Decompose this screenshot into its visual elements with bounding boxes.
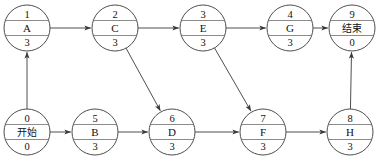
activity-network-diagram: 1A32C33E34G39结束00开始05B36D37F38H3 <box>0 0 381 162</box>
node-label: C <box>111 22 118 34</box>
node-a[interactable]: 1A3 <box>4 5 50 51</box>
node-earliest-time: 7 <box>260 113 265 124</box>
node-label: F <box>260 126 266 138</box>
node-duration: 3 <box>200 37 205 48</box>
node-earliest-time: 2 <box>112 9 117 20</box>
node-duration: 0 <box>24 141 29 152</box>
node-label: 开始 <box>17 126 37 138</box>
nodes-layer: 1A32C33E34G39结束00开始05B36D37F38H3 <box>4 5 375 155</box>
node-duration: 3 <box>260 141 265 152</box>
node-duration: 3 <box>287 37 292 48</box>
node-label: A <box>23 22 31 34</box>
edge-c-to-d <box>126 48 160 111</box>
node-duration: 3 <box>112 37 117 48</box>
node-earliest-time: 9 <box>349 9 354 20</box>
node-label: 结束 <box>342 22 362 34</box>
node-g[interactable]: 4G3 <box>267 5 313 51</box>
node-duration: 3 <box>347 141 352 152</box>
node-earliest-time: 6 <box>169 113 174 124</box>
node-earliest-time: 3 <box>200 9 205 20</box>
node-d[interactable]: 6D3 <box>149 109 195 155</box>
node-duration: 0 <box>349 37 354 48</box>
node-f[interactable]: 7F3 <box>240 109 286 155</box>
node-label: E <box>200 22 207 34</box>
graph-canvas: 1A32C33E34G39结束00开始05B36D37F38H3 <box>0 0 381 162</box>
node-earliest-time: 0 <box>24 113 29 124</box>
node-label: G <box>286 22 294 34</box>
node-label: D <box>168 126 176 138</box>
node-c[interactable]: 2C3 <box>92 5 138 51</box>
node-h[interactable]: 8H3 <box>327 109 373 155</box>
edge-h-to-end <box>350 52 351 109</box>
node-start[interactable]: 0开始0 <box>4 109 50 155</box>
node-label: H <box>346 126 354 138</box>
node-label: B <box>91 126 98 138</box>
edge-e-to-f <box>214 48 250 111</box>
node-earliest-time: 8 <box>347 113 352 124</box>
node-e[interactable]: 3E3 <box>180 5 226 51</box>
node-earliest-time: 1 <box>24 9 29 20</box>
node-end[interactable]: 9结束0 <box>329 5 375 51</box>
node-duration: 3 <box>24 37 29 48</box>
node-b[interactable]: 5B3 <box>72 109 118 155</box>
node-duration: 3 <box>169 141 174 152</box>
node-earliest-time: 5 <box>92 113 97 124</box>
node-duration: 3 <box>92 141 97 152</box>
node-earliest-time: 4 <box>287 9 293 20</box>
